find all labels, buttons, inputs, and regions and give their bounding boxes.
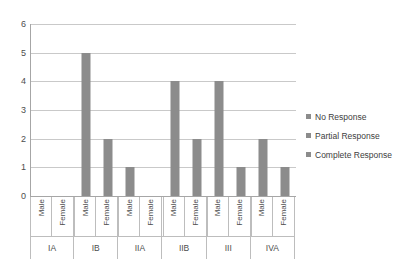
x-axis-subcategory-label: Female	[146, 199, 155, 226]
bar-slot	[186, 24, 208, 196]
y-axis-tick-label: 1	[12, 163, 26, 172]
legend-item[interactable]: No Response	[306, 108, 401, 125]
bar-slot	[119, 24, 141, 196]
bar-slot	[230, 24, 252, 196]
bar-slot	[274, 24, 296, 196]
legend-swatch-icon	[306, 152, 311, 157]
x-axis-subcategory-female: Female	[185, 197, 207, 237]
x-axis-group-ib: IB	[74, 237, 118, 259]
bar-chart: 0123456 MaleFemaleMaleFemaleMaleFemaleMa…	[0, 0, 403, 266]
bar-slot	[53, 24, 75, 196]
x-axis-group-ia: IA	[30, 237, 74, 259]
bar-slot	[97, 24, 119, 196]
bar-slot	[164, 24, 186, 196]
x-axis-subcategory-label: Female	[235, 199, 244, 226]
bar-slot	[141, 24, 163, 196]
x-axis-subcategory-female: Female	[140, 197, 162, 237]
y-axis-tick-label: 0	[12, 192, 26, 201]
x-axis-subcategory-female: Female	[229, 197, 251, 237]
legend-swatch-icon	[306, 114, 311, 119]
bar-slot	[31, 24, 53, 196]
x-axis-subcategory-label: Male	[37, 199, 46, 216]
legend-swatch-icon	[306, 133, 311, 138]
plot-area	[30, 24, 295, 196]
x-axis-subcategory-male: Male	[251, 197, 273, 237]
bar[interactable]	[192, 139, 201, 196]
x-axis-subcategory-label: Female	[279, 199, 288, 226]
legend-item[interactable]: Partial Response	[306, 127, 401, 144]
x-axis-subcategory-label: Female	[58, 199, 67, 226]
legend-item-label: No Response	[315, 112, 367, 122]
y-axis-tick-label: 5	[12, 49, 26, 58]
x-axis-group-iva: IVA	[251, 237, 295, 259]
x-axis-subcategory-label: Male	[257, 199, 266, 216]
x-axis-subcategory-label: Male	[169, 199, 178, 216]
legend: No ResponsePartial ResponseComplete Resp…	[306, 108, 401, 165]
y-axis-tick-label: 4	[12, 77, 26, 86]
x-axis-subcategory-male: Male	[163, 197, 185, 237]
x-axis-group-iia: IIA	[118, 237, 162, 259]
legend-item[interactable]: Complete Response	[306, 146, 401, 163]
x-axis-subcategory-female: Female	[96, 197, 118, 237]
bar[interactable]	[82, 53, 91, 196]
x-axis-group-iii: III	[207, 237, 251, 259]
x-axis-subcategory-label: Male	[213, 199, 222, 216]
x-axis-subcategory-label: Male	[125, 199, 134, 216]
x-axis-group-row: IAIBIIAIIBIIIIVA	[30, 236, 295, 258]
x-axis-subcategory-label: Female	[102, 199, 111, 226]
x-axis-group-label: III	[225, 243, 232, 253]
x-axis-subcategory-label: Male	[81, 199, 90, 216]
bar-slot	[208, 24, 230, 196]
x-axis-subcategory-row: MaleFemaleMaleFemaleMaleFemaleMaleFemale…	[30, 196, 295, 236]
y-axis: 0123456	[8, 0, 26, 266]
bar[interactable]	[280, 167, 289, 196]
x-axis-group-iib: IIB	[163, 237, 207, 259]
y-axis-tick-label: 2	[12, 135, 26, 144]
x-axis-subcategory-label: Female	[191, 199, 200, 226]
x-axis-group-label: IIB	[179, 243, 189, 253]
bar[interactable]	[126, 167, 135, 196]
bar[interactable]	[236, 167, 245, 196]
x-axis-group-label: IA	[48, 243, 56, 253]
bar[interactable]	[258, 139, 267, 196]
x-axis-group-label: IIA	[135, 243, 145, 253]
x-axis-subcategory-male: Male	[30, 197, 52, 237]
x-axis-subcategory-male: Male	[118, 197, 140, 237]
bar-slot	[75, 24, 97, 196]
x-axis-subcategory-female: Female	[273, 197, 295, 237]
x-axis-group-label: IVA	[266, 243, 279, 253]
y-axis-tick-label: 3	[12, 106, 26, 115]
x-axis-group-label: IB	[92, 243, 100, 253]
x-axis: MaleFemaleMaleFemaleMaleFemaleMaleFemale…	[30, 196, 295, 258]
bar-slot	[252, 24, 274, 196]
x-axis-subcategory-female: Female	[52, 197, 74, 237]
x-axis-subcategory-male: Male	[207, 197, 229, 237]
bar[interactable]	[104, 139, 113, 196]
bar[interactable]	[170, 81, 179, 196]
bars-group	[31, 24, 296, 196]
bar[interactable]	[214, 81, 223, 196]
legend-item-label: Complete Response	[315, 150, 392, 160]
legend-item-label: Partial Response	[315, 131, 380, 141]
x-axis-subcategory-male: Male	[74, 197, 96, 237]
y-axis-tick-label: 6	[12, 20, 26, 29]
